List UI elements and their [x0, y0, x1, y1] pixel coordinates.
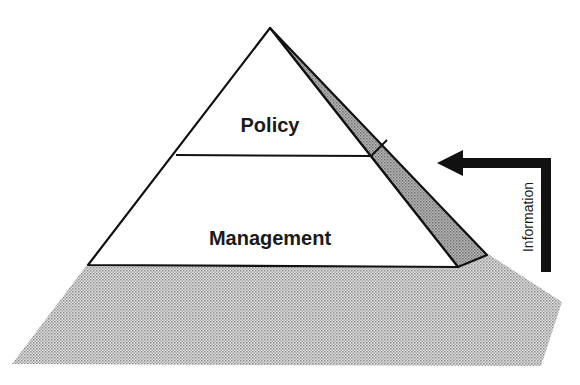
arrow-label-information: Information — [520, 182, 536, 252]
pyramid-diagram: Policy Management Information — [0, 0, 580, 385]
layer-divider — [176, 155, 373, 156]
layer-label-management: Management — [209, 227, 332, 249]
layer-label-policy: Policy — [241, 114, 301, 136]
arrow-head-icon — [437, 150, 463, 176]
ground-shadow — [12, 254, 562, 366]
